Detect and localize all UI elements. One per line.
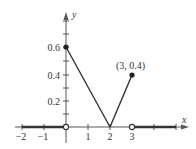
- point-annotation: (3, 0.4): [116, 60, 145, 72]
- open-point-0-0: [63, 124, 68, 129]
- decreasing-segment: [66, 47, 110, 127]
- increasing-segment: [110, 75, 132, 127]
- x-axis-label: x: [181, 114, 187, 125]
- x-tick-neg2: −2: [16, 131, 27, 142]
- x-tick-1: 1: [86, 131, 91, 142]
- series: [22, 44, 176, 129]
- x-tick-2: 2: [108, 131, 113, 142]
- closed-point-0-0.6: [63, 44, 68, 49]
- y-tick-0.6: 0.6: [48, 42, 61, 53]
- open-point-3-0: [129, 124, 134, 129]
- chart: y x (3, 0.4) 0.6 0.4 0.2 −2 −1 1 2 3: [0, 0, 196, 149]
- y-axis-label: y: [71, 9, 77, 20]
- closed-point-3-0.4: [129, 72, 134, 77]
- y-axis-arrow-icon: [64, 12, 69, 20]
- y-tick-0.4: 0.4: [48, 70, 61, 81]
- x-tick-3: 3: [130, 131, 135, 142]
- x-tick-neg1: −1: [38, 131, 49, 142]
- y-axis: [63, 12, 69, 143]
- x-axis-arrow-icon: [181, 125, 189, 130]
- y-tick-0.2: 0.2: [48, 96, 61, 107]
